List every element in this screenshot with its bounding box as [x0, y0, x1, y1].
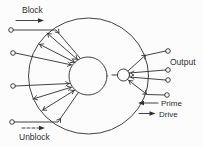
- output-label: Output: [170, 57, 196, 67]
- terminal: [11, 51, 16, 56]
- winding-line: [129, 77, 165, 80]
- unblock-label: Unblock: [19, 132, 50, 142]
- arrowhead-icon: [39, 126, 45, 131]
- terminal: [10, 120, 15, 125]
- winding-line: [15, 53, 72, 65]
- arrowhead-icon: [38, 18, 44, 23]
- terminal: [9, 28, 14, 33]
- winding-line: [33, 87, 72, 99]
- prime-annotation: Prime: [138, 99, 182, 108]
- terminal: [166, 68, 171, 73]
- arrowhead-icon: [150, 111, 156, 116]
- drive-label: Drive: [159, 110, 178, 119]
- unblock-annotation: Unblock: [19, 126, 50, 142]
- prime-label: Prime: [161, 99, 182, 108]
- winding-line: [42, 90, 75, 111]
- terminal: [11, 84, 16, 89]
- drive-annotation: Drive: [139, 110, 178, 119]
- core-winding-diagram: Block Unblock Output Prime Drive: [0, 0, 203, 147]
- diagram-canvas: Block Unblock Output Prime Drive: [0, 0, 203, 147]
- right-terminals: [165, 49, 171, 98]
- terminal: [165, 93, 170, 98]
- terminal: [166, 78, 171, 83]
- left-terminals: [9, 28, 16, 125]
- block-annotation: Block: [16, 5, 44, 23]
- winding-line: [129, 70, 166, 73]
- unblock-winding: [14, 81, 78, 122]
- core-outline: [29, 18, 149, 134]
- core: [29, 18, 149, 134]
- winding-line: [15, 84, 70, 87]
- terminal: [166, 49, 171, 54]
- block-label: Block: [22, 5, 44, 15]
